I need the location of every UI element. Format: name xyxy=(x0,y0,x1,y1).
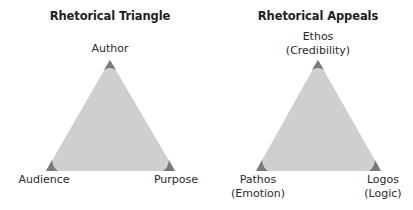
rhetorical-appeals-panel: Rhetorical Appeals Ethos (Credibility) P… xyxy=(0,0,413,210)
vertex-label-bottom-left: Pathos (Emotion) xyxy=(231,173,285,201)
vertex-label-line: (Emotion) xyxy=(231,187,285,201)
vertex-label-line: Ethos xyxy=(286,30,350,44)
vertex-label-line: Pathos xyxy=(231,173,285,187)
vertex-label-line: Logos xyxy=(364,173,401,187)
vertex-label-top: Ethos (Credibility) xyxy=(286,30,350,58)
vertex-label-line: (Credibility) xyxy=(286,44,350,58)
diagram-title: Rhetorical Appeals xyxy=(258,9,378,23)
vertex-label-bottom-right: Logos (Logic) xyxy=(364,173,401,201)
vertex-label-line: (Logic) xyxy=(364,187,401,201)
